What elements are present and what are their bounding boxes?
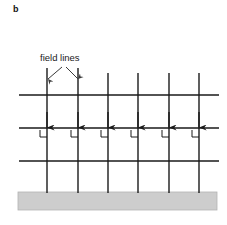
annotation-leader-group	[48, 67, 78, 79]
right-angle-mark-group	[40, 130, 199, 137]
right-angle-mark	[131, 130, 138, 137]
right-angle-mark	[40, 130, 47, 137]
field-line-arrow-group	[47, 112, 199, 128]
annotation-leader-line	[66, 67, 78, 79]
equipotential-line-group	[19, 95, 219, 161]
right-angle-mark	[162, 130, 169, 137]
right-angle-mark	[192, 130, 199, 137]
annotation-leader-line	[48, 67, 62, 79]
field-lines-diagram	[0, 0, 227, 225]
field-line-group	[47, 68, 199, 193]
right-angle-mark	[71, 130, 78, 137]
right-angle-mark	[101, 130, 108, 137]
figure-root: b field lines	[0, 0, 227, 225]
ground-layer	[18, 192, 217, 210]
